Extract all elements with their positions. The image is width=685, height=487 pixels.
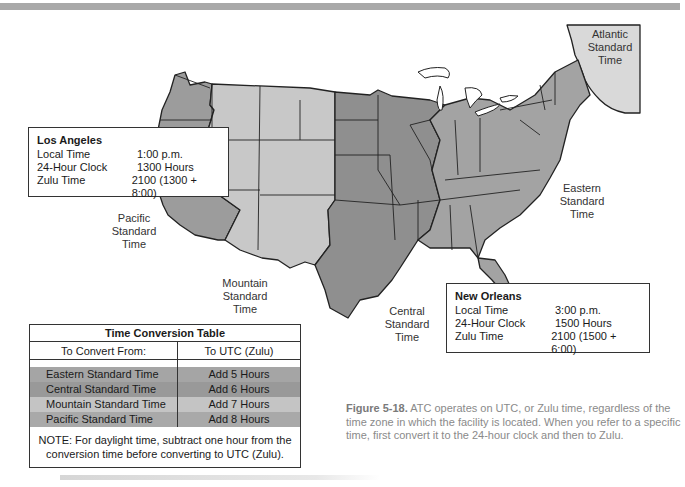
los-angeles-callout: Los Angeles Local Time 1:00 p.m. 24-Hour… — [28, 127, 229, 197]
label-eastern-zone: Eastern Standard Time — [552, 182, 612, 221]
label-central-zone: Central Standard Time — [377, 305, 437, 344]
central-zone — [315, 90, 445, 318]
callout-row: Zulu Time 2100 (1300 + 8:00) — [37, 174, 220, 200]
table-row: Eastern Standard Time Add 5 Hours — [30, 367, 300, 382]
label-pacific-zone: Pacific Standard Time — [104, 212, 164, 251]
table-row: Pacific Standard Time Add 8 Hours — [30, 412, 300, 427]
lake-ontario — [500, 95, 518, 102]
lake-superior — [418, 68, 449, 79]
callout-row: 24-Hour Clock 1300 Hours — [37, 161, 220, 174]
column-header-from: To Convert From: — [30, 342, 178, 359]
figure-number: Figure 5-18. — [346, 402, 408, 414]
lake-michigan — [437, 86, 443, 110]
table-title: Time Conversion Table — [30, 325, 300, 342]
new-orleans-callout: New Orleans Local Time 3:00 p.m. 24-Hour… — [446, 283, 650, 353]
bottom-rule — [60, 475, 380, 480]
callout-row: Zulu Time 2100 (1500 + 6:00) — [455, 330, 641, 356]
callout-row: 24-Hour Clock 1500 Hours — [455, 317, 641, 330]
city-name: New Orleans — [455, 290, 641, 303]
callout-row: Local Time 3:00 p.m. — [455, 304, 641, 317]
table-note: NOTE: For daylight time, subtract one ho… — [30, 427, 300, 467]
table-row: Central Standard Time Add 6 Hours — [30, 382, 300, 397]
label-atlantic-zone: Atlantic Standard Time — [580, 28, 640, 67]
table-spacer — [30, 360, 300, 367]
city-name: Los Angeles — [37, 134, 220, 147]
callout-row: Local Time 1:00 p.m. — [37, 148, 220, 161]
table-row: Mountain Standard Time Add 7 Hours — [30, 397, 300, 412]
time-conversion-table: Time Conversion Table To Convert From: T… — [29, 324, 301, 468]
column-header-to: To UTC (Zulu) — [178, 342, 300, 359]
figure-caption: Figure 5-18. ATC operates on UTC, or Zul… — [346, 402, 685, 443]
eastern-zone — [418, 60, 590, 258]
label-mountain-zone: Mountain Standard Time — [213, 277, 277, 316]
table-header-row: To Convert From: To UTC (Zulu) — [30, 342, 300, 360]
